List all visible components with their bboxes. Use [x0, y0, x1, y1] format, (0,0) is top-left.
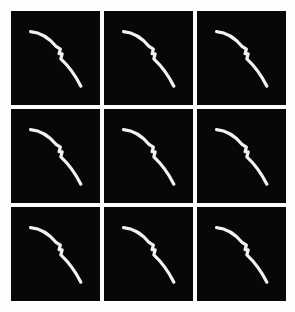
curve-plot — [11, 109, 100, 203]
curve-path-icon — [217, 228, 267, 283]
panel-cell[interactable]: panel-3 — [197, 11, 286, 105]
curve-plot — [104, 11, 193, 105]
curve-path-icon — [31, 32, 81, 87]
curve-plot — [197, 207, 286, 301]
curve-path-icon — [31, 228, 81, 283]
curve-plot — [104, 109, 193, 203]
panel-grid: panel-1 panel-2 panel-3 panel-4 panel-5 — [11, 11, 286, 301]
panel-cell[interactable]: panel-6 — [197, 109, 286, 203]
panel-cell[interactable]: panel-7 — [11, 207, 100, 301]
panel-cell[interactable]: panel-2 — [104, 11, 193, 105]
panel-cell[interactable]: panel-5 — [104, 109, 193, 203]
curve-plot — [197, 11, 286, 105]
panel-cell[interactable]: panel-1 — [11, 11, 100, 105]
curve-path-icon — [31, 130, 81, 185]
curve-path-icon — [124, 130, 174, 185]
curve-plot — [197, 109, 286, 203]
curve-path-icon — [217, 130, 267, 185]
figure-canvas: panel-1 panel-2 panel-3 panel-4 panel-5 — [0, 0, 295, 312]
curve-path-icon — [124, 32, 174, 87]
curve-plot — [104, 207, 193, 301]
curve-plot — [11, 11, 100, 105]
curve-path-icon — [217, 32, 267, 87]
panel-cell[interactable]: panel-9 — [197, 207, 286, 301]
curve-path-icon — [124, 228, 174, 283]
panel-cell[interactable]: panel-8 — [104, 207, 193, 301]
curve-plot — [11, 207, 100, 301]
panel-cell[interactable]: panel-4 — [11, 109, 100, 203]
